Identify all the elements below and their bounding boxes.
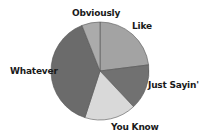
pie-chart: Obviously Like Just Sayin' You Know What… — [0, 0, 200, 136]
label-you-know: You Know — [111, 122, 159, 132]
label-just-sayin: Just Sayin' — [148, 80, 199, 90]
label-obviously: Obviously — [72, 8, 120, 18]
label-whatever: Whatever — [10, 66, 58, 76]
label-like: Like — [132, 21, 152, 31]
